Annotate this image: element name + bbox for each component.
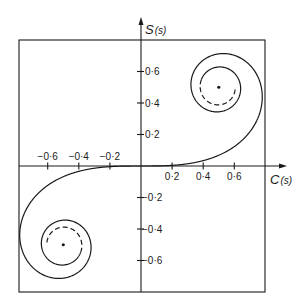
y-tick-label: −0·6 [142, 255, 163, 266]
y-tick-label: 0·4 [145, 98, 160, 109]
x-tick-label: −0·4 [69, 151, 90, 162]
y-axis-arrow-icon [139, 17, 144, 25]
cornu-spiral-chart: −0·6−0·4−0·20·20·40·6 0·60·40·2−0·2−0·4−… [0, 0, 308, 306]
x-tick-label: 0·2 [165, 171, 180, 182]
upper-limit-point-dot [217, 86, 220, 89]
x-tick-label: 0·4 [196, 171, 211, 182]
spiral-tail-upper-dashed [200, 79, 235, 105]
y-tick-label: −0·4 [142, 224, 163, 235]
lower-limit-point-dot [62, 243, 65, 246]
y-axis-title: S(s) [145, 22, 166, 37]
x-axis-title: C(s) [270, 172, 292, 187]
x-tick-label: 0·6 [227, 171, 242, 182]
y-tick-label: 0·2 [145, 129, 160, 140]
x-tick-label: −0·2 [100, 151, 121, 162]
x-tick-label: −0·6 [38, 151, 59, 162]
spiral-tail-lower-dashed [47, 227, 82, 253]
x-axis-arrow-icon [279, 164, 287, 169]
y-tick-label: −0·2 [142, 192, 163, 203]
y-tick-label: 0·6 [145, 66, 160, 77]
